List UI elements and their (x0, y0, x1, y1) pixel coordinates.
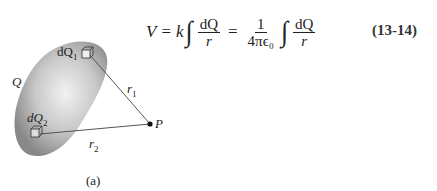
dq1-label: dQ1 (57, 44, 77, 62)
point-p-dot (147, 121, 152, 126)
dq2-label: dQ2 (27, 110, 47, 128)
dq2-subscript: 2 (43, 118, 48, 128)
point-p-label: P (155, 116, 163, 132)
r2-subscript: 2 (94, 144, 99, 154)
charge-label: Q (12, 74, 21, 90)
r1-subscript: 1 (132, 89, 137, 99)
r1-label: r1 (127, 81, 137, 99)
dq2-text: dQ (27, 110, 43, 125)
r2-label: r2 (89, 136, 99, 154)
charge-distribution-figure (0, 0, 437, 191)
dq1-text: dQ (57, 44, 73, 59)
dq1-subscript: 1 (73, 52, 78, 62)
figure-caption: (a) (86, 173, 100, 189)
